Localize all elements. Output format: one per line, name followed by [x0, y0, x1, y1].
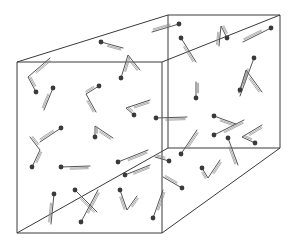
molecule [93, 126, 113, 140]
molecule [155, 155, 171, 164]
atom-dot [252, 56, 257, 61]
atom-dot [194, 96, 199, 101]
atom-dot [116, 160, 121, 165]
atom-dot [151, 216, 156, 221]
atom-dot [34, 90, 39, 95]
atom-dot [212, 133, 217, 138]
molecule [79, 190, 100, 224]
diagram-canvas [0, 0, 295, 250]
atom-dot [59, 165, 64, 170]
atom-dot [59, 126, 64, 131]
atom-dot [51, 86, 56, 91]
molecule [179, 36, 196, 63]
atom-dot [52, 192, 57, 197]
atom-dot [73, 188, 78, 193]
atom-dot [118, 188, 123, 193]
atom-dot [179, 152, 184, 157]
atom-dot [154, 116, 159, 121]
atom-dot [93, 135, 98, 140]
molecule [49, 192, 57, 224]
molecule [238, 70, 262, 92]
molecule [118, 188, 139, 210]
atom-dot [226, 136, 231, 141]
molecule [28, 58, 51, 94]
atom-dot [212, 114, 217, 119]
atom-dot [119, 76, 124, 81]
atom-dot [123, 173, 128, 178]
box-edge-depth [162, 148, 280, 233]
molecule [85, 84, 101, 113]
molecule [126, 100, 150, 117]
molecule [194, 82, 199, 100]
molecule [179, 130, 199, 156]
molecule [163, 175, 184, 190]
atom-dot [253, 141, 258, 146]
molecule [217, 25, 230, 46]
atom-dot [30, 165, 35, 170]
molecule [119, 55, 140, 80]
molecule [99, 40, 123, 51]
atom-dot [99, 40, 104, 45]
atom-dot [79, 220, 84, 225]
atom-dot [238, 88, 243, 93]
molecule [154, 116, 187, 121]
atom-dot [269, 26, 274, 31]
atom-dot [177, 22, 182, 27]
molecule [212, 114, 236, 126]
molecule [152, 22, 181, 32]
molecule [226, 136, 238, 165]
molecule [151, 190, 165, 220]
atom-dot [180, 186, 185, 191]
box-edge-depth [17, 15, 168, 62]
molecule [42, 86, 55, 110]
molecule [200, 160, 222, 179]
box-edge-depth [17, 148, 168, 233]
molecule [242, 125, 262, 145]
box-edges [17, 15, 280, 233]
atom-dot [97, 84, 102, 89]
atom-dot [132, 113, 137, 118]
molecule-box-diagram [0, 0, 295, 250]
molecule [30, 136, 42, 169]
molecule [40, 126, 64, 142]
atom-dot [167, 159, 172, 164]
atom-dot [225, 36, 230, 41]
atom-dot [200, 166, 205, 171]
atom-dot [179, 36, 184, 41]
molecules [28, 22, 273, 225]
molecule [59, 165, 90, 170]
